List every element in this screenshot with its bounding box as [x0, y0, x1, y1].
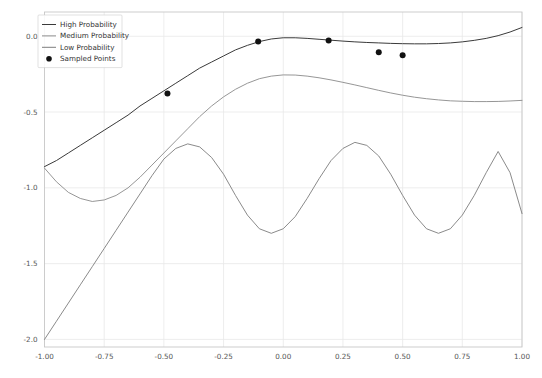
- chart-legend: High ProbabilityMedium ProbabilityLow Pr…: [38, 15, 130, 68]
- legend-marker-swatch: [46, 56, 52, 62]
- x-tick-label: -0.50: [155, 352, 174, 361]
- y-tick-label: -2.0: [23, 335, 37, 344]
- legend-label: Medium Probability: [60, 31, 130, 40]
- plot-canvas: -1.00-0.75-0.50-0.250.000.250.500.751.00…: [0, 0, 542, 378]
- y-tick-label: -1.5: [23, 259, 37, 268]
- legend-label: Low Probability: [60, 43, 115, 52]
- chart-figure: -1.00-0.75-0.50-0.250.000.250.500.751.00…: [0, 0, 542, 378]
- x-tick-label: 0.50: [395, 352, 411, 361]
- sampled-point: [326, 38, 332, 44]
- x-axis-tick-labels: -1.00-0.75-0.50-0.250.000.250.500.751.00: [35, 352, 530, 361]
- x-tick-label: 0.75: [454, 352, 470, 361]
- x-tick-label: 1.00: [514, 352, 530, 361]
- x-tick-label: -1.00: [35, 352, 54, 361]
- y-tick-label: -1.0: [23, 183, 37, 192]
- sampled-point: [255, 38, 261, 44]
- y-tick-label: -0.5: [23, 108, 37, 117]
- x-tick-label: 0.00: [275, 352, 291, 361]
- y-tick-label: 0.0: [26, 32, 38, 41]
- sampled-point: [376, 49, 382, 55]
- x-tick-label: -0.25: [214, 352, 233, 361]
- sampled-point: [400, 52, 406, 58]
- sampled-point: [164, 90, 170, 96]
- x-tick-label: 0.25: [335, 352, 351, 361]
- x-tick-label: -0.75: [95, 352, 114, 361]
- legend-label: Sampled Points: [60, 54, 116, 63]
- legend-label: High Probability: [60, 20, 118, 29]
